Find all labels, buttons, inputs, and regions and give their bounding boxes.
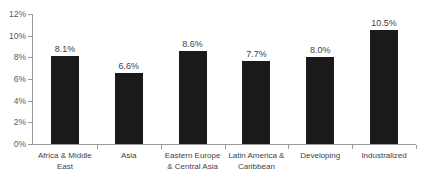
bar-value-label: 6.6% xyxy=(118,61,139,71)
x-axis-tick-mark xyxy=(416,145,417,149)
chart-title-cropped: . xyxy=(0,0,424,4)
bar-group: 8.1% xyxy=(33,14,97,144)
bar-value-label: 8.1% xyxy=(55,44,76,54)
bar[interactable] xyxy=(306,57,334,144)
x-axis-tick-mark xyxy=(225,145,226,149)
bar-value-label: 7.7% xyxy=(246,49,267,59)
y-axis-tick-label: 12% xyxy=(0,10,26,19)
bar[interactable] xyxy=(51,56,79,144)
bar[interactable] xyxy=(115,73,143,145)
y-axis-tick-label: 6% xyxy=(0,75,26,84)
bar-group: 8.0% xyxy=(288,14,352,144)
plot-area: 8.1%6.6%8.6%7.7%8.0%10.5% xyxy=(33,14,416,144)
y-axis-tick-label: 4% xyxy=(0,97,26,106)
x-axis-category-label: Industralized xyxy=(352,151,416,162)
bar-group: 10.5% xyxy=(352,14,416,144)
x-axis-category-label: Africa & Middle East xyxy=(33,151,97,172)
bar-value-label: 8.6% xyxy=(182,39,203,49)
y-axis-tick-label: 8% xyxy=(0,53,26,62)
bar-value-label: 8.0% xyxy=(310,45,331,55)
bar[interactable] xyxy=(179,51,207,144)
x-axis-tick-mark xyxy=(161,145,162,149)
x-axis-category-label: Eastern Europe & Central Asia xyxy=(161,151,225,172)
bar[interactable] xyxy=(242,61,270,144)
y-axis-tick-label: 0% xyxy=(0,140,26,149)
x-axis-category-label: Developing xyxy=(288,151,352,162)
x-axis-category-label: Latin America & Caribbean xyxy=(225,151,289,172)
x-axis-tick-mark xyxy=(352,145,353,149)
y-axis-tick-label: 2% xyxy=(0,118,26,127)
bar-group: 8.6% xyxy=(161,14,225,144)
x-axis-category-label: Asia xyxy=(97,151,161,162)
y-axis-tick-label: 10% xyxy=(0,32,26,41)
bar-chart: . 0%2%4%6%8%10%12% 8.1%6.6%8.6%7.7%8.0%1… xyxy=(0,0,424,181)
bar-group: 7.7% xyxy=(225,14,289,144)
x-axis-tick-mark xyxy=(97,145,98,149)
bar[interactable] xyxy=(370,30,398,144)
bar-value-label: 10.5% xyxy=(371,18,397,28)
bar-group: 6.6% xyxy=(97,14,161,144)
x-axis-tick-mark xyxy=(288,145,289,149)
